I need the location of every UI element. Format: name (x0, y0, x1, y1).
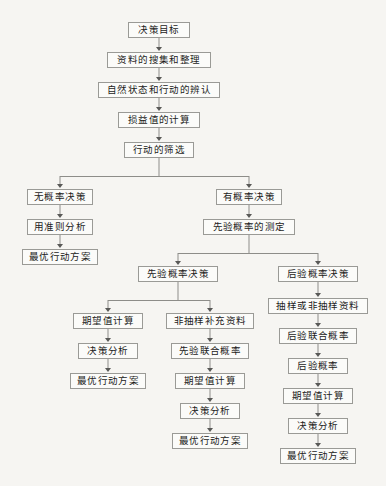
arrow-head-icon (57, 184, 63, 188)
flow-node-n19: 决策分析 (180, 403, 240, 419)
flow-node-n6: 无概率决策 (27, 189, 93, 205)
flow-node-n12: 后验概率决策 (278, 266, 358, 282)
flow-node-label: 先验联合概率 (179, 346, 241, 356)
arrow-head-icon (207, 398, 213, 402)
arrow-head-icon (207, 338, 213, 342)
connector-line (178, 282, 179, 300)
arrow-head-icon (175, 261, 181, 265)
flow-node-label: 决策分析 (297, 421, 339, 431)
flow-node-label: 无概率决策 (34, 192, 86, 202)
connector-line (108, 300, 210, 301)
flow-node-n24: 期望值计算 (283, 388, 353, 404)
arrow-head-icon (105, 308, 111, 312)
arrow-head-icon (315, 443, 321, 447)
decision-analysis-flowchart: 决策目标资料的搜集和整理自然状态和行动的辨认损益值的计算行动的筛选无概率决策用准… (0, 0, 386, 486)
flow-node-n13: 期望值计算 (73, 313, 143, 329)
flow-node-n17: 先验联合概率 (171, 343, 249, 359)
arrow-head-icon (156, 47, 162, 51)
flow-node-label: 最优行动方案 (287, 451, 349, 461)
arrow-head-icon (315, 261, 321, 265)
flow-node-label: 最优行动方案 (179, 436, 241, 446)
flow-node-label: 抽样或非抽样资料 (276, 301, 359, 311)
flow-node-label: 自然状态和行动的辨认 (107, 85, 211, 95)
connector-line (249, 235, 250, 253)
flow-node-n7: 用准则分析 (27, 219, 93, 235)
flow-node-n20: 最优行动方案 (172, 433, 248, 449)
flow-node-n23: 后验概率 (288, 358, 348, 374)
flow-node-n21: 抽样或非抽样资料 (268, 298, 368, 314)
flow-node-n4: 损益值的计算 (118, 112, 200, 128)
flow-node-label: 决策分析 (87, 346, 129, 356)
arrow-head-icon (315, 383, 321, 387)
flow-node-label: 先验概率决策 (147, 269, 209, 279)
flow-node-label: 非抽样补充资料 (174, 316, 247, 326)
flow-node-n15: 最优行动方案 (70, 373, 146, 389)
flow-node-label: 期望值计算 (292, 391, 344, 401)
flow-node-n3: 自然状态和行动的辨认 (98, 82, 220, 98)
flow-node-n14: 决策分析 (78, 343, 138, 359)
flow-node-n5: 行动的筛选 (124, 142, 194, 158)
flow-node-n2: 资料的搜集和整理 (107, 52, 211, 68)
flow-node-n22: 后验联合概率 (279, 328, 357, 344)
flow-node-n25: 决策分析 (288, 418, 348, 434)
connector-line (159, 158, 160, 176)
flow-node-label: 行动的筛选 (133, 145, 185, 155)
flow-node-n10: 先验概率的测定 (203, 219, 295, 235)
arrow-head-icon (156, 137, 162, 141)
arrow-head-icon (207, 428, 213, 432)
flow-node-label: 损益值的计算 (128, 115, 190, 125)
connector-line (178, 253, 318, 254)
arrow-head-icon (156, 107, 162, 111)
flow-node-label: 有概率决策 (223, 192, 275, 202)
arrow-head-icon (315, 413, 321, 417)
flow-node-label: 后验概率决策 (287, 269, 349, 279)
arrow-head-icon (207, 308, 213, 312)
flow-node-n9: 有概率决策 (216, 189, 282, 205)
flow-node-label: 期望值计算 (184, 376, 236, 386)
arrow-head-icon (246, 214, 252, 218)
flow-node-label: 后验概率 (297, 361, 339, 371)
flow-node-label: 资料的搜集和整理 (117, 55, 200, 65)
flow-node-n16: 非抽样补充资料 (166, 313, 254, 329)
arrow-head-icon (57, 244, 63, 248)
arrow-head-icon (315, 353, 321, 357)
flow-node-label: 最优行动方案 (29, 252, 91, 262)
flow-node-label: 用准则分析 (34, 222, 86, 232)
flow-node-label: 决策目标 (138, 25, 180, 35)
arrow-head-icon (246, 184, 252, 188)
arrow-head-icon (57, 214, 63, 218)
flow-node-n18: 期望值计算 (175, 373, 245, 389)
arrow-head-icon (105, 368, 111, 372)
flow-node-n8: 最优行动方案 (22, 249, 98, 265)
flow-node-label: 后验联合概率 (287, 331, 349, 341)
flow-node-n26: 最优行动方案 (280, 448, 356, 464)
flow-node-label: 期望值计算 (82, 316, 134, 326)
flow-node-label: 决策分析 (189, 406, 231, 416)
connector-line (60, 176, 249, 177)
flow-node-label: 最优行动方案 (77, 376, 139, 386)
flow-node-n1: 决策目标 (128, 22, 190, 38)
arrow-head-icon (207, 368, 213, 372)
flow-node-label: 先验概率的测定 (213, 222, 286, 232)
arrow-head-icon (105, 338, 111, 342)
flow-node-n11: 先验概率决策 (138, 266, 218, 282)
arrow-head-icon (315, 323, 321, 327)
arrow-head-icon (156, 77, 162, 81)
arrow-head-icon (315, 293, 321, 297)
